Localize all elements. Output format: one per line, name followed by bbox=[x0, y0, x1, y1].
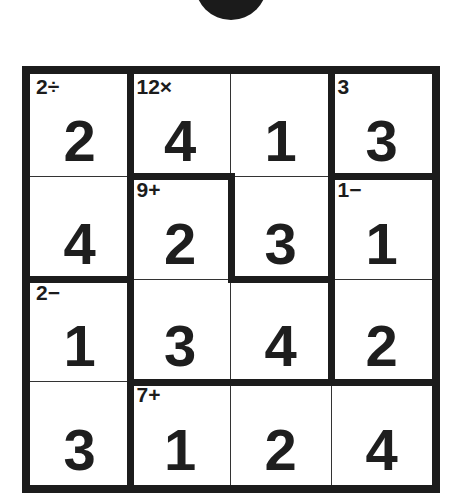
cage-label: 3 bbox=[338, 76, 350, 97]
cage-border bbox=[127, 379, 235, 386]
grid-cell-r3c0[interactable]: 3 bbox=[30, 382, 131, 485]
grid-cell-r0c1[interactable]: 12×4 bbox=[131, 74, 232, 177]
cell-value: 4 bbox=[332, 421, 433, 479]
cage-border bbox=[127, 71, 134, 181]
grid-cell-r2c3[interactable]: 2 bbox=[332, 280, 433, 383]
cell-value: 2 bbox=[131, 215, 231, 273]
grid-cell-r3c1[interactable]: 7+1 bbox=[131, 382, 232, 485]
cell-value: 1 bbox=[231, 112, 331, 170]
cage-border bbox=[328, 71, 335, 181]
grid-cell-r2c0[interactable]: 2−1 bbox=[30, 280, 131, 383]
cage-label: 1− bbox=[338, 179, 362, 200]
grid-cell-r3c3[interactable]: 4 bbox=[332, 382, 433, 485]
cell-value: 2 bbox=[30, 112, 130, 170]
cell-value: 4 bbox=[231, 317, 331, 375]
grid-cell-r2c2[interactable]: 4 bbox=[231, 280, 332, 383]
grid-cell-r0c2[interactable]: 1 bbox=[231, 74, 332, 177]
grid-cell-r0c0[interactable]: 2÷2 bbox=[30, 74, 131, 177]
cage-border bbox=[228, 379, 336, 386]
grid-cell-r1c2[interactable]: 3 bbox=[231, 177, 332, 280]
cell-value: 4 bbox=[30, 215, 130, 273]
grid-cell-r1c0[interactable]: 4 bbox=[30, 177, 131, 280]
grid-cell-r2c1[interactable]: 3 bbox=[131, 280, 232, 383]
kenken-grid: 2÷212×413349+231−12−134237+124 bbox=[22, 66, 440, 493]
cage-border bbox=[228, 173, 235, 283]
cell-value: 2 bbox=[231, 421, 331, 479]
cell-value: 1 bbox=[131, 421, 231, 479]
puzzle-badge-icon bbox=[195, 0, 267, 20]
cage-border bbox=[328, 379, 436, 386]
cell-value: 3 bbox=[332, 112, 433, 170]
cage-border bbox=[328, 173, 335, 283]
cell-value: 4 bbox=[131, 112, 231, 170]
cage-border bbox=[27, 276, 135, 283]
cage-border bbox=[127, 173, 235, 180]
cell-value: 2 bbox=[332, 317, 433, 375]
cage-label: 2÷ bbox=[36, 76, 59, 97]
cage-label: 12× bbox=[137, 76, 173, 97]
grid-cell-r0c3[interactable]: 33 bbox=[332, 74, 433, 177]
cage-label: 9+ bbox=[137, 179, 161, 200]
cell-value: 3 bbox=[231, 215, 331, 273]
cage-border bbox=[328, 276, 335, 386]
cage-border bbox=[328, 173, 436, 180]
cell-value: 1 bbox=[30, 317, 130, 375]
cage-border bbox=[228, 276, 336, 283]
grid-cell-r1c3[interactable]: 1−1 bbox=[332, 177, 433, 280]
cage-border bbox=[127, 276, 134, 386]
cage-border bbox=[127, 173, 134, 283]
cage-label: 2− bbox=[36, 282, 60, 303]
cell-value: 1 bbox=[332, 215, 433, 273]
cell-value: 3 bbox=[131, 317, 231, 375]
cage-label: 7+ bbox=[137, 384, 161, 405]
grid-cell-r3c2[interactable]: 2 bbox=[231, 382, 332, 485]
cage-border bbox=[127, 379, 134, 489]
cell-value: 3 bbox=[30, 421, 130, 479]
grid-cell-r1c1[interactable]: 9+2 bbox=[131, 177, 232, 280]
